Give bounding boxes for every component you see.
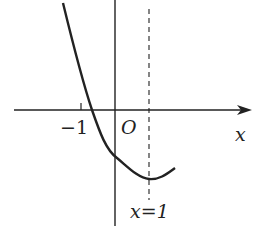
function-graph: −1 O x x=1 — [0, 0, 260, 233]
parabola-curve — [63, 3, 175, 179]
origin-label: O — [121, 118, 137, 137]
x-axis-label: x — [235, 125, 246, 144]
tick-label-minus-one: −1 — [60, 118, 88, 137]
symmetry-line-label: x=1 — [130, 202, 169, 221]
